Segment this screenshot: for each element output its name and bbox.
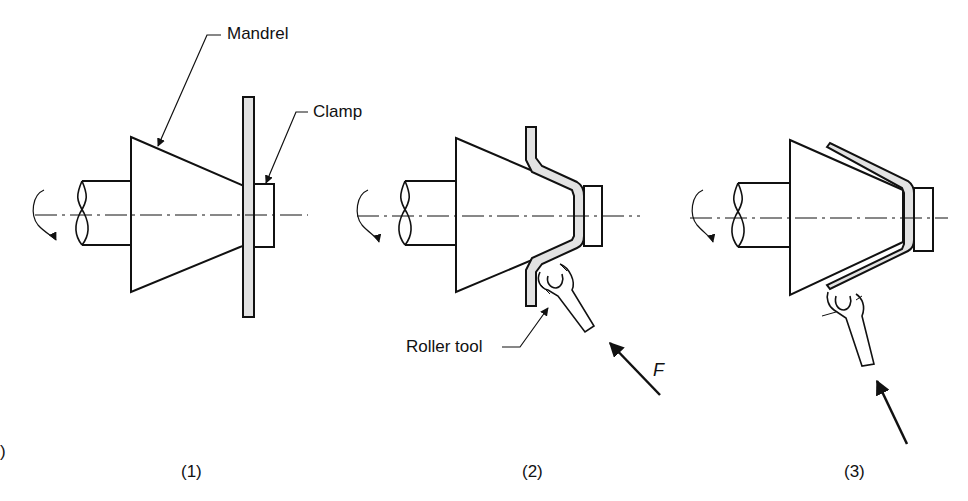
roller-tool-label: Roller tool	[406, 337, 483, 357]
shaft	[732, 183, 790, 247]
clamp-leader	[266, 112, 308, 183]
sheet-blank	[243, 97, 254, 317]
roller-tool	[538, 264, 594, 332]
stage-3	[690, 140, 948, 444]
rotation-arrow-icon	[692, 190, 713, 242]
spinning-diagram	[0, 0, 968, 501]
clamp-label: Clamp	[313, 102, 362, 122]
roller-tool-leader	[502, 308, 548, 347]
stage-1-caption: (1)	[181, 462, 202, 482]
force-label: F	[653, 360, 664, 381]
stage-1	[33, 35, 308, 317]
mandrel-leader	[158, 35, 221, 146]
stage-2-caption: (2)	[522, 462, 543, 482]
roller-tool	[822, 292, 874, 366]
shaft	[399, 181, 456, 245]
stage-3-caption: (3)	[844, 462, 865, 482]
mandrel-label: Mandrel	[227, 24, 288, 44]
edge-mark: )	[0, 442, 6, 462]
stage-2	[357, 127, 660, 395]
shaft	[76, 181, 131, 245]
clamp	[914, 188, 933, 251]
force-arrow	[877, 381, 907, 444]
